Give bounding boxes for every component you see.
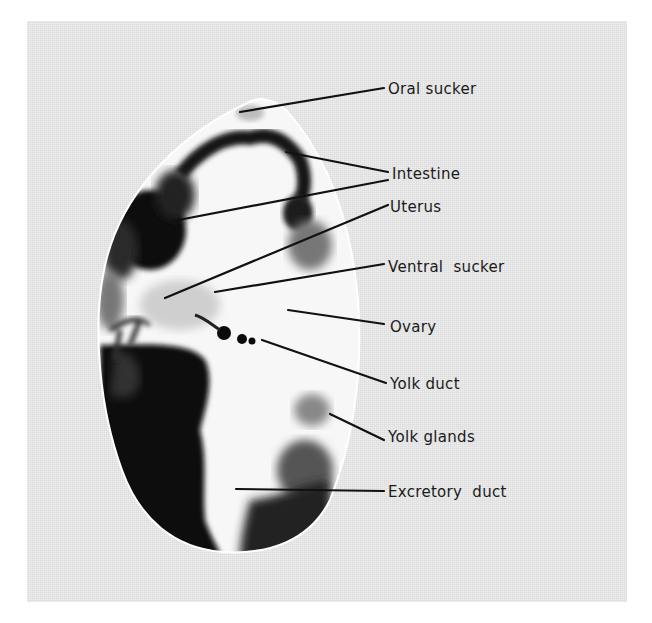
label-uterus: Uterus <box>390 198 441 216</box>
label-excretory-duct: Excretory duct <box>388 483 507 501</box>
label-yolk-glands: Yolk glands <box>388 428 475 446</box>
label-ventral-sucker: Ventral sucker <box>388 258 504 276</box>
label-ovary: Ovary <box>390 318 436 336</box>
label-yolk-duct: Yolk duct <box>390 375 460 393</box>
specimen-illustration <box>0 0 652 623</box>
label-oral-sucker: Oral sucker <box>388 80 477 98</box>
label-intestine: Intestine <box>392 165 460 183</box>
